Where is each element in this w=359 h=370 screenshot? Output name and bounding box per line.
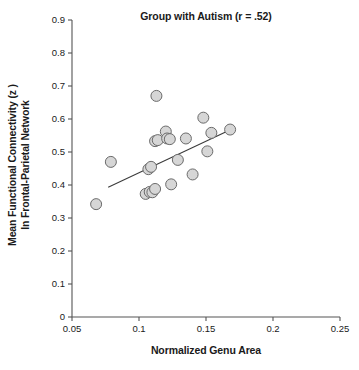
data-point (150, 183, 161, 194)
data-point (172, 154, 183, 165)
y-axis: 00.10.20.30.40.50.60.70.80.9 (52, 14, 72, 322)
data-point (206, 127, 217, 138)
data-point (180, 133, 191, 144)
data-point (91, 199, 102, 210)
scatter-plot-figure: Group with Autism (r = .52) Mean Functio… (0, 0, 359, 370)
data-point (151, 90, 162, 101)
x-axis: 0.050.10.150.20.25 (63, 317, 350, 334)
x-tick-label: 0.05 (63, 323, 82, 334)
y-tick-label: 0.7 (52, 80, 65, 91)
x-tick-label: 0.1 (132, 323, 145, 334)
y-tick-label: 0.2 (52, 245, 65, 256)
y-tick-label: 0.3 (52, 212, 65, 223)
data-point (164, 134, 175, 145)
y-tick-label: 0.6 (52, 113, 65, 124)
data-point (198, 112, 209, 123)
y-tick-label: 0 (60, 311, 65, 322)
y-tick-label: 0.9 (52, 14, 65, 25)
x-tick-label: 0.25 (331, 323, 350, 334)
x-tick-label: 0.2 (266, 323, 279, 334)
data-point (105, 156, 116, 167)
y-tick-label: 0.8 (52, 47, 65, 58)
data-point (146, 161, 157, 172)
y-tick-label: 0.5 (52, 146, 65, 157)
data-point (166, 179, 177, 190)
data-point (225, 124, 236, 135)
data-points (91, 90, 236, 209)
data-point (202, 146, 213, 157)
data-point (187, 169, 198, 180)
x-tick-label: 0.15 (197, 323, 216, 334)
plot-canvas: 00.10.20.30.40.50.60.70.80.9 0.050.10.15… (0, 0, 359, 370)
y-tick-label: 0.4 (52, 179, 65, 190)
y-tick-label: 0.1 (52, 278, 65, 289)
